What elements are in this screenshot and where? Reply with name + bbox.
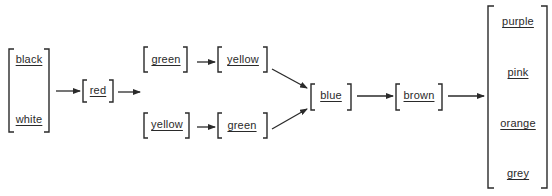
node-brown: brown: [404, 89, 435, 101]
node-purple: purple: [502, 15, 534, 27]
lower-green-right-bracket: [263, 113, 267, 138]
node-blue: blue: [320, 89, 342, 101]
end-group-left-bracket: [488, 6, 494, 188]
node-upper-green: green: [151, 53, 180, 65]
node-grey: grey: [507, 167, 529, 179]
lower-yellow-left-bracket: [144, 113, 148, 138]
node-red: red: [90, 84, 107, 96]
arrow-upper-yellow-to-blue: [272, 69, 307, 88]
diagram-canvas: [0, 0, 552, 196]
node-black: black: [16, 53, 43, 65]
start-group-left-bracket: [9, 49, 14, 132]
lower-green-left-bracket: [218, 113, 222, 138]
upper-green-right-bracket: [183, 47, 187, 72]
node-pink: pink: [508, 66, 529, 78]
brown-left-bracket: [396, 84, 400, 110]
arrow-lower-green-to-blue: [272, 109, 307, 129]
red-left-bracket: [83, 80, 87, 102]
red-right-bracket: [109, 80, 113, 102]
node-upper-yellow: yellow: [227, 53, 259, 65]
upper-yellow-left-bracket: [218, 47, 222, 72]
start-group-right-bracket: [44, 49, 49, 132]
upper-green-left-bracket: [144, 47, 148, 72]
node-white: white: [16, 113, 43, 125]
blue-right-bracket: [347, 84, 351, 110]
node-lower-yellow: yellow: [151, 118, 183, 130]
node-orange: orange: [500, 117, 535, 129]
upper-yellow-right-bracket: [263, 47, 267, 72]
brown-right-bracket: [438, 84, 442, 110]
node-lower-green: green: [227, 119, 256, 131]
lower-yellow-right-bracket: [185, 113, 189, 138]
blue-left-bracket: [311, 84, 315, 110]
end-group-right-bracket: [541, 6, 547, 188]
